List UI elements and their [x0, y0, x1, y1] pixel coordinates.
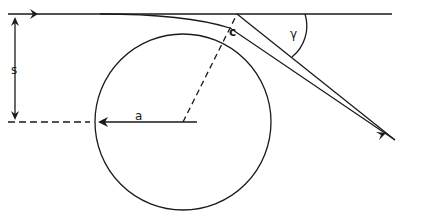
deflected-trajectory — [100, 14, 395, 140]
label-c: c — [229, 26, 236, 38]
asymptote-line — [237, 14, 395, 140]
label-gamma: γ — [290, 28, 297, 40]
label-a: a — [135, 110, 142, 122]
deflection-diagram — [0, 0, 430, 217]
outgoing-arrow-icon — [376, 132, 386, 140]
label-s: s — [11, 64, 17, 76]
